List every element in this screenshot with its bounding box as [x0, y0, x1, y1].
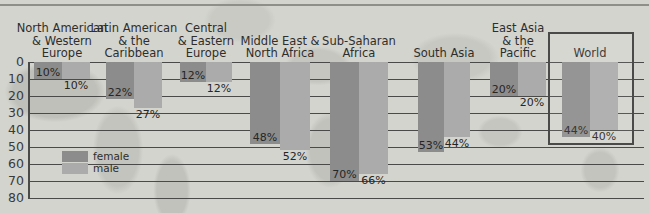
bar-value-label: 44% — [444, 138, 470, 149]
bar-value-label: 20% — [490, 84, 518, 95]
bar-value-label: 70% — [330, 169, 359, 180]
bar-pair: 20%20% — [490, 62, 546, 198]
bar-pair: 48%52% — [250, 62, 310, 198]
bar-group-south-asia[interactable]: South Asia53%44% — [418, 62, 470, 198]
bar-male[interactable]: 20% — [518, 62, 546, 96]
bar-value-label: 48% — [250, 132, 280, 143]
top-divider-rule — [0, 4, 649, 6]
y-tick-20: 20 — [8, 90, 24, 103]
world-highlight-box — [548, 32, 634, 145]
y-tick-50: 50 — [8, 141, 24, 154]
bar-group-latin-american-the-caribbean[interactable]: Latin American & the Caribbean22%27% — [106, 62, 162, 198]
bar-female[interactable]: 20% — [490, 62, 518, 96]
bar-male[interactable]: 27% — [134, 62, 162, 108]
y-tick-10: 10 — [8, 73, 24, 86]
bar-value-label: 66% — [359, 175, 388, 186]
bar-female[interactable]: 48% — [250, 62, 280, 144]
bar-value-label: 12% — [206, 83, 232, 94]
bar-male[interactable]: 52% — [280, 62, 310, 150]
bar-female[interactable]: 10% — [34, 62, 62, 79]
chart-legend: female male — [62, 150, 129, 174]
y-axis-tick-labels: 01020304050607080 — [0, 62, 26, 198]
y-tick-30: 30 — [8, 107, 24, 120]
bar-value-label: 10% — [62, 80, 90, 91]
bar-pair: 12%12% — [180, 62, 232, 198]
bar-female[interactable]: 12% — [180, 62, 206, 82]
bar-value-label: 52% — [280, 151, 310, 162]
bar-group-sub-saharan-africa[interactable]: Sub-Saharan Africa70%66% — [330, 62, 388, 198]
bar-value-label: 10% — [34, 67, 62, 78]
gridline-80 — [28, 198, 644, 199]
legend-swatch-female-icon — [62, 151, 88, 162]
plot-area: North American & Western Europe10%10%Lat… — [28, 62, 644, 198]
y-tick-60: 60 — [8, 158, 24, 171]
bar-value-label: 53% — [418, 140, 444, 151]
bar-chart-figure: 01020304050607080 North American & Weste… — [0, 0, 649, 213]
bar-pair: 53%44% — [418, 62, 470, 198]
bar-group-middle-east-north-africa[interactable]: Middle East & North Africa48%52% — [250, 62, 310, 198]
y-tick-80: 80 — [8, 192, 24, 205]
bar-male[interactable]: 44% — [444, 62, 470, 137]
legend-item-male: male — [62, 162, 129, 174]
bar-pair: 22%27% — [106, 62, 162, 198]
bar-value-label: 27% — [134, 109, 162, 120]
y-tick-40: 40 — [8, 124, 24, 137]
bar-female[interactable]: 22% — [106, 62, 134, 99]
bar-pair: 10%10% — [34, 62, 90, 198]
bar-female[interactable]: 53% — [418, 62, 444, 152]
bar-pair: 70%66% — [330, 62, 388, 198]
bar-male[interactable]: 10% — [62, 62, 90, 79]
bar-value-label: 22% — [106, 87, 134, 98]
bar-group-north-american-western-europe[interactable]: North American & Western Europe10%10% — [34, 62, 90, 198]
bar-male[interactable]: 12% — [206, 62, 232, 82]
legend-label-male: male — [93, 163, 119, 174]
legend-label-female: female — [93, 151, 129, 162]
bar-value-label: 12% — [180, 70, 206, 81]
legend-item-female: female — [62, 150, 129, 162]
bar-female[interactable]: 70% — [330, 62, 359, 181]
legend-swatch-male-icon — [62, 163, 88, 174]
bar-male[interactable]: 66% — [359, 62, 388, 174]
bar-group-central-eastern-europe[interactable]: Central & Eastern Europe12%12% — [180, 62, 232, 198]
bar-value-label: 20% — [518, 97, 546, 108]
y-tick-70: 70 — [8, 175, 24, 188]
bar-group-east-asia-the-pacific[interactable]: East Asia & the Pacific20%20% — [490, 62, 546, 198]
